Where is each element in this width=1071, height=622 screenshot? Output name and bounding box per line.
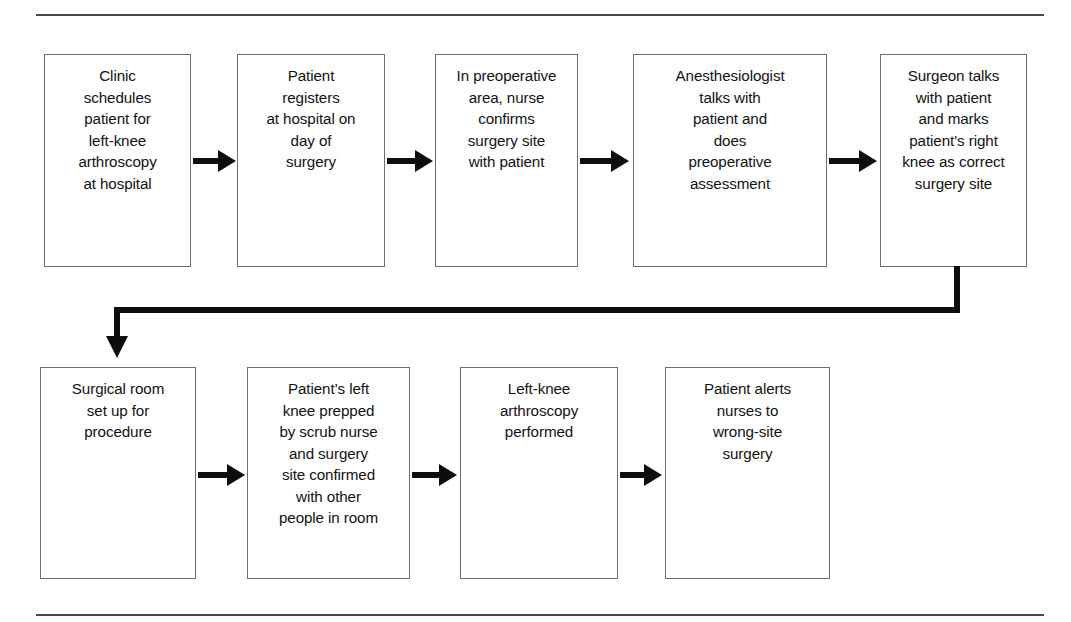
flow-arrow-step-6-to-step-7	[198, 464, 246, 486]
arrow-shaft	[412, 472, 441, 478]
flowchart-node-step-2: Patient registers at hospital on day of …	[237, 54, 385, 267]
arrow-head-icon	[859, 150, 877, 172]
arrow-shaft	[829, 158, 861, 164]
flowchart-node-step-7: Patient’s left knee prepped by scrub nur…	[247, 367, 410, 579]
flowchart-node-label: Patient’s left knee prepped by scrub nur…	[279, 378, 378, 529]
flowchart-node-label: Surgeon talks with patient and marks pat…	[902, 65, 1004, 194]
flowchart-node-step-8: Left-knee arthroscopy performed	[460, 367, 618, 579]
arrow-head-icon	[415, 150, 433, 172]
arrow-shaft	[620, 472, 646, 478]
flow-arrow-step-4-to-step-5	[829, 150, 878, 172]
flow-arrow-step-2-to-step-3	[387, 150, 433, 172]
flowchart-node-step-5: Surgeon talks with patient and marks pat…	[880, 54, 1027, 267]
bottom-horizontal-rule	[36, 614, 1044, 616]
flowchart-node-label: Left-knee arthroscopy performed	[500, 378, 578, 443]
flowchart-node-step-6: Surgical room set up for procedure	[40, 367, 196, 579]
flow-arrow-step-1-to-step-2	[193, 150, 236, 172]
flowchart-node-step-3: In preoperative area, nurse confirms sur…	[435, 54, 578, 267]
top-horizontal-rule	[36, 14, 1044, 16]
flow-arrow-step-3-to-step-4	[580, 150, 630, 172]
flowchart-node-step-9: Patient alerts nurses to wrong-site surg…	[665, 367, 830, 579]
flowchart-node-label: Surgical room set up for procedure	[72, 378, 164, 443]
elbow-horizontal-segment	[114, 307, 960, 313]
arrow-head-icon	[439, 464, 457, 486]
flowchart-node-label: Patient alerts nurses to wrong-site surg…	[704, 378, 791, 464]
flowchart-node-label: Clinic schedules patient for left-knee a…	[78, 65, 156, 194]
flowchart-node-step-1: Clinic schedules patient for left-knee a…	[44, 54, 191, 267]
elbow-vertical-segment-left	[114, 307, 120, 337]
arrow-head-icon	[644, 464, 662, 486]
arrow-head-icon	[611, 150, 629, 172]
elbow-vertical-segment-right	[954, 266, 960, 313]
arrow-shaft	[387, 158, 417, 164]
arrow-shaft	[193, 158, 220, 164]
flowchart-node-label: Patient registers at hospital on day of …	[267, 65, 356, 173]
arrow-shaft	[198, 472, 229, 478]
arrow-head-icon	[106, 336, 128, 358]
flowchart-node-label: In preoperative area, nurse confirms sur…	[457, 65, 557, 173]
flow-arrow-step-8-to-step-9	[620, 464, 663, 486]
flowchart-figure: Clinic schedules patient for left-knee a…	[0, 0, 1071, 622]
flow-arrow-step-7-to-step-8	[412, 464, 458, 486]
arrow-head-icon	[218, 150, 236, 172]
flowchart-node-step-4: Anesthesiologist talks with patient and …	[633, 54, 827, 267]
arrow-head-icon	[227, 464, 245, 486]
arrow-shaft	[580, 158, 613, 164]
flowchart-node-label: Anesthesiologist talks with patient and …	[676, 65, 785, 194]
